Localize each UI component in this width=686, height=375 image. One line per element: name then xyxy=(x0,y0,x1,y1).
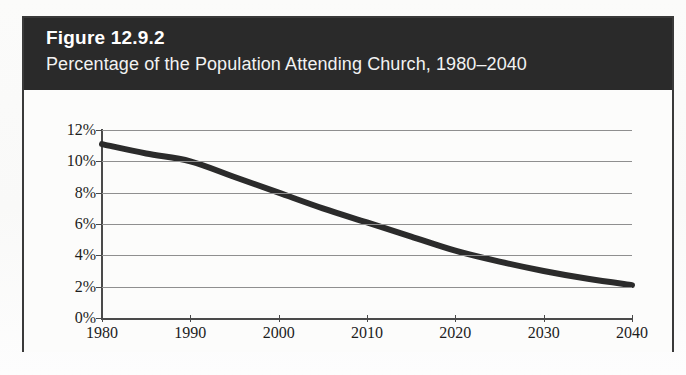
x-tick-label-2020: 2020 xyxy=(439,324,471,342)
y-tick-label-10: 10% xyxy=(67,152,96,170)
y-tick-mark-2 xyxy=(96,287,102,288)
y-tick-mark-12 xyxy=(96,130,102,131)
y-tick-label-6: 6% xyxy=(75,215,96,233)
y-tick-label-12: 12% xyxy=(67,121,96,139)
y-tick-label-8: 8% xyxy=(75,184,96,202)
figure-subtitle: Percentage of the Population Attending C… xyxy=(46,51,672,78)
figure-container: Figure 12.9.2 Percentage of the Populati… xyxy=(22,16,674,352)
y-tick-label-2: 2% xyxy=(75,278,96,296)
y-tick-mark-8 xyxy=(96,193,102,194)
x-tick-mark-1990 xyxy=(190,315,191,322)
page-background: Figure 12.9.2 Percentage of the Populati… xyxy=(0,0,686,375)
plot-area xyxy=(102,130,632,318)
gridline-y-10 xyxy=(102,161,632,162)
gridline-y-2 xyxy=(102,287,632,288)
x-tick-label-2010: 2010 xyxy=(351,324,383,342)
x-axis-labels: 1980199020002010202020302040 xyxy=(102,322,632,348)
y-axis-labels: 12%10%8%6%4%2%0% xyxy=(44,130,96,318)
x-tick-mark-2010 xyxy=(367,315,368,322)
chart-body: 12%10%8%6%4%2%0% 19801990200020102020203… xyxy=(24,90,672,352)
y-tick-mark-10 xyxy=(96,161,102,162)
x-tick-mark-1980 xyxy=(102,315,103,322)
x-tick-label-1990: 1990 xyxy=(174,324,206,342)
series-path-percentage-attending-church xyxy=(102,144,632,285)
x-tick-label-1980: 1980 xyxy=(86,324,118,342)
x-tick-mark-2040 xyxy=(632,315,633,322)
y-tick-mark-4 xyxy=(96,255,102,256)
y-tick-mark-6 xyxy=(96,224,102,225)
gridline-y-6 xyxy=(102,224,632,225)
y-tick-label-4: 4% xyxy=(75,246,96,264)
x-tick-mark-2020 xyxy=(455,315,456,322)
figure-title-band: Figure 12.9.2 Percentage of the Populati… xyxy=(24,18,672,90)
x-tick-mark-2000 xyxy=(279,315,280,322)
figure-number: Figure 12.9.2 xyxy=(46,24,672,51)
gridline-y-12 xyxy=(102,130,632,131)
x-tick-mark-2030 xyxy=(544,315,545,322)
gridline-y-4 xyxy=(102,255,632,256)
gridline-y-8 xyxy=(102,193,632,194)
x-tick-label-2040: 2040 xyxy=(616,324,648,342)
x-tick-label-2000: 2000 xyxy=(263,324,295,342)
x-tick-label-2030: 2030 xyxy=(528,324,560,342)
